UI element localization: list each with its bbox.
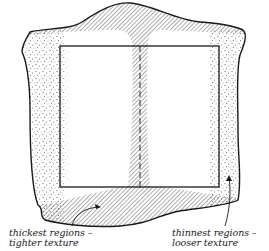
thickest-label-line2: tighter texture [9,238,92,248]
skin-diagram [0,0,269,251]
thinnest-label-line2: looser texture [172,238,257,248]
thinnest-regions-label: thinnest regions – looser texture [172,228,257,248]
thickest-regions-label: thickest regions – tighter texture [9,228,92,248]
